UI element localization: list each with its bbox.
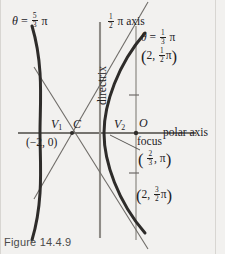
fraction-denominator: 3 (160, 38, 166, 46)
label-center-c: C (73, 117, 81, 132)
fraction-one-half-axis: 1 2 (108, 13, 114, 29)
fraction-denominator: 2 (108, 22, 114, 30)
fraction-three-halves: 3 2 (154, 186, 160, 202)
label-focus: focus (137, 135, 162, 147)
label-point-two-thirds-pi: ( 2 3 , π) (138, 150, 171, 170)
radius-value: 2, (142, 188, 151, 200)
figure-caption: Figure 14.4.9 (4, 236, 71, 248)
label-polar-axis: polar axis (163, 126, 208, 138)
paren-close: ) (172, 47, 178, 66)
label-point-minus-two-zero: (−2, 0) (26, 136, 57, 148)
asymptote-positive-slope (34, 2, 148, 199)
equals-sign-left: = (21, 14, 28, 28)
vertex-subscript: 1 (58, 123, 62, 132)
label-vertex-v2: V2 (114, 117, 125, 132)
comma-separator: , (154, 152, 157, 164)
paren-close: ) (166, 150, 172, 169)
fraction-denominator: 3 (147, 159, 153, 167)
fraction-one-third: 1 3 (160, 29, 166, 45)
asymptote-negative-slope (34, 67, 148, 249)
label-theta-one-third-pi: θ = 1 3 π (141, 29, 175, 45)
paren-open: ( (138, 150, 144, 169)
pi-symbol-left: π (42, 14, 48, 28)
fraction-two-thirds: 2 3 (147, 150, 153, 166)
pi-symbol-right: π (169, 31, 175, 43)
axis-word: axis (126, 15, 145, 27)
theta-symbol-left: θ (12, 14, 18, 28)
fraction-five-thirds: 5 3 (32, 12, 38, 29)
fraction-denominator: 2 (154, 195, 160, 203)
theta-symbol-right: θ (141, 31, 147, 43)
pi-symbol-axis: π (118, 15, 124, 27)
radius-value: 2, (147, 49, 156, 61)
fraction-denominator: 3 (32, 21, 38, 29)
label-theta-five-thirds-pi: θ = 5 3 π (12, 12, 48, 29)
label-directrix: directrix (96, 66, 108, 105)
label-half-pi-axis: 1 2 π axis (107, 13, 145, 29)
label-origin-o: O (139, 116, 148, 131)
fraction-denominator: 2 (159, 56, 165, 64)
equals-sign-right: = (150, 31, 157, 43)
label-point-two-three-halves-pi: (2, 3 2 π) (136, 186, 172, 206)
vertex-subscript: 2 (121, 123, 125, 132)
label-point-two-half-pi: (2, 1 2 π) (141, 47, 177, 67)
paren-close: ) (167, 186, 173, 205)
fraction-one-half-point: 1 2 (159, 47, 165, 63)
label-vertex-v1: V1 (51, 117, 62, 132)
